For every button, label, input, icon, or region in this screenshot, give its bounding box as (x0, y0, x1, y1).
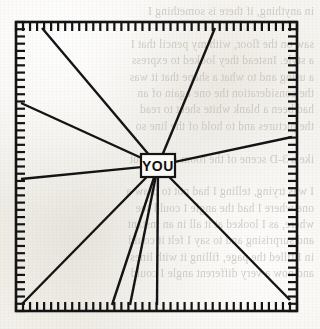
ray-bottom-right (157, 177, 158, 305)
ray-left-lower (21, 167, 141, 179)
you-label: YOU (142, 158, 174, 174)
figure-canvas: in anything, if there is something Isaw … (0, 0, 320, 329)
ray-lower-left-corner (23, 177, 147, 303)
ray-upper-left (42, 28, 148, 154)
radial-diagram-svg: YOU (0, 0, 320, 329)
ray-lower-right-corner (169, 177, 290, 300)
ray-upper-right (163, 28, 215, 154)
ray-left-upper (21, 103, 141, 158)
ray-right (175, 137, 292, 162)
center-marker[interactable]: YOU (141, 154, 175, 177)
